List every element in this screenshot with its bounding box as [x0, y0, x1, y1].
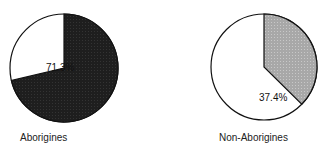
pie-aborigines: 71.3% [10, 14, 118, 122]
pie-non-aborigines-percent: 37.4% [259, 92, 287, 103]
label-aborigines: Aborigines [20, 132, 67, 143]
label-non-aborigines: Non-Aborigines [219, 132, 288, 143]
pie-aborigines-percent: 71.3% [46, 62, 74, 73]
pie-charts: 71.3% 37.4% Aborigines Non-Aborigines [0, 0, 326, 154]
pie-non-aborigines: 37.4% [211, 14, 317, 120]
